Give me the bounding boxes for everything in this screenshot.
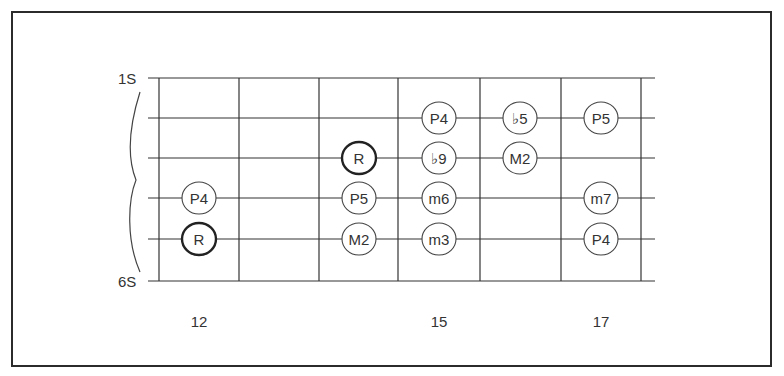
frets (159, 78, 641, 281)
note-label: P4 (592, 231, 610, 248)
note-marker: P4 (422, 102, 456, 134)
fret-number: 17 (593, 313, 610, 330)
note-label: ♭5 (512, 110, 527, 127)
note-marker: P5 (584, 102, 618, 134)
note-marker: R (182, 223, 216, 255)
notes: P4♭5P5R♭9M2P4P5m6m7RM2m3P4 (182, 102, 618, 255)
note-marker: m6 (422, 182, 456, 214)
note-marker: P4 (584, 223, 618, 255)
note-marker: ♭5 (503, 102, 537, 134)
note-label: P5 (350, 190, 368, 207)
note-marker: m3 (422, 223, 456, 255)
note-marker: P5 (342, 182, 376, 214)
string-bracket (130, 92, 140, 272)
note-label: R (194, 231, 205, 248)
fret-numbers: 121517 (191, 313, 610, 330)
note-label: M2 (349, 231, 370, 248)
note-label: P4 (430, 110, 448, 127)
note-label: P4 (190, 190, 208, 207)
strings (148, 78, 655, 281)
fret-number: 15 (431, 313, 448, 330)
note-marker: M2 (503, 142, 537, 174)
note-label: m6 (429, 190, 450, 207)
note-label: m3 (429, 231, 450, 248)
note-marker: m7 (584, 182, 618, 214)
fretboard: 1S 6S 121517 P4♭5P5R♭9M2P4P5m6m7RM2m3P4 (0, 0, 784, 376)
fret-number: 12 (191, 313, 208, 330)
note-marker: R (342, 142, 376, 174)
string-label-top: 1S (118, 70, 136, 87)
note-marker: ♭9 (422, 142, 456, 174)
note-label: M2 (510, 150, 531, 167)
note-marker: P4 (182, 182, 216, 214)
note-marker: M2 (342, 223, 376, 255)
note-label: ♭9 (431, 150, 446, 167)
string-label-bottom: 6S (118, 273, 136, 290)
note-label: P5 (592, 110, 610, 127)
note-label: R (354, 150, 365, 167)
note-label: m7 (591, 190, 612, 207)
